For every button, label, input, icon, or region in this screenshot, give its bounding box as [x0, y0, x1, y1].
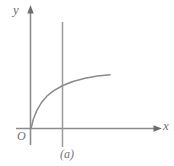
coordinate-plot — [0, 0, 174, 166]
curve-path — [31, 75, 110, 129]
x-axis-label: x — [163, 119, 169, 132]
x-axis-arrowhead-icon — [154, 125, 163, 131]
origin-label: O — [17, 130, 26, 142]
y-axis-arrowhead-icon — [27, 5, 33, 14]
figure-container: y x O (a) — [0, 0, 174, 166]
y-axis-label: y — [13, 3, 19, 16]
figure-caption: (a) — [60, 148, 74, 160]
